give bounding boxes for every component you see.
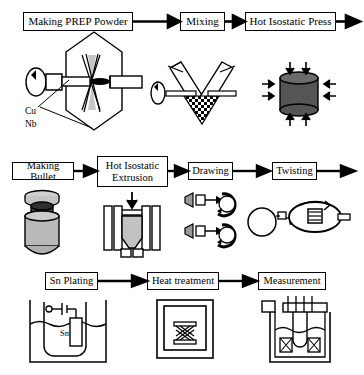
sample-holder	[293, 312, 307, 347]
cryogen-level	[275, 328, 325, 333]
cryostat-dewar-outer	[270, 312, 330, 362]
probe-top-plate	[283, 303, 327, 312]
cryostat-probe-illustration	[0, 0, 364, 375]
port-block-left	[262, 301, 275, 312]
